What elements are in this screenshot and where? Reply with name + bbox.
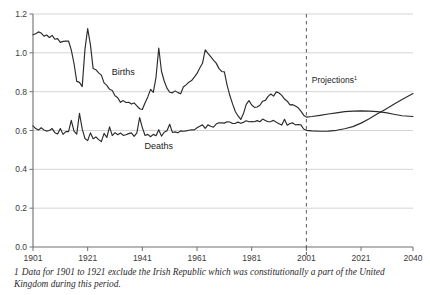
x-tick-label-2021: 2021 bbox=[352, 253, 371, 263]
annotation-text: Deaths bbox=[144, 141, 173, 151]
annotation-projections: Projections1 bbox=[312, 75, 357, 85]
x-tick-label-1961: 1961 bbox=[188, 253, 207, 263]
chart-plot-area: 0.00.20.40.60.81.01.21901192119411961198… bbox=[0, 0, 430, 295]
chart-footnote: 1Data for 1901 to 1921 exclude the Irish… bbox=[14, 266, 414, 291]
y-tick-label-0.2: 0.2 bbox=[15, 203, 27, 213]
y-tick-label-0.6: 0.6 bbox=[15, 126, 27, 136]
y-tick-label-1.2: 1.2 bbox=[15, 9, 27, 19]
x-tick-label-1921: 1921 bbox=[78, 253, 97, 263]
annotation-births: Births bbox=[112, 67, 136, 77]
x-tick-label-1941: 1941 bbox=[133, 253, 152, 263]
annotation-text: Projections bbox=[312, 75, 354, 85]
footnote-text: Data for 1901 to 1921 exclude the Irish … bbox=[14, 267, 385, 289]
annotation-text: Births bbox=[112, 67, 136, 77]
y-tick-label-0.0: 0.0 bbox=[15, 242, 27, 252]
series-line-deaths bbox=[33, 94, 413, 142]
annotation-superscript: 1 bbox=[354, 75, 357, 81]
annotation-deaths: Deaths bbox=[144, 141, 173, 151]
y-tick-label-1.0: 1.0 bbox=[15, 48, 27, 58]
footnote-marker: 1 bbox=[14, 267, 19, 277]
x-tick-label-2040: 2040 bbox=[404, 253, 423, 263]
x-tick-label-1981: 1981 bbox=[242, 253, 261, 263]
births-deaths-line-chart: 0.00.20.40.60.81.01.21901192119411961198… bbox=[0, 0, 430, 295]
y-tick-label-0.4: 0.4 bbox=[15, 164, 27, 174]
x-tick-label-1901: 1901 bbox=[24, 253, 43, 263]
y-tick-label-0.8: 0.8 bbox=[15, 87, 27, 97]
